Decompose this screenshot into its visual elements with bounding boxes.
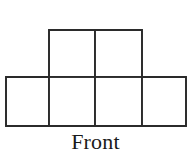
bottom-square-2 [49,77,95,126]
figure-svg [0,0,191,130]
figure-screenshot: Front [0,0,191,157]
bottom-square-4 [142,77,186,126]
top-square-1 [49,30,95,77]
bottom-square-3 [95,77,142,126]
top-square-2 [95,30,142,77]
figure-caption: Front [0,128,191,157]
bottom-square-1 [6,77,49,126]
cube-stack-figure [0,0,191,130]
